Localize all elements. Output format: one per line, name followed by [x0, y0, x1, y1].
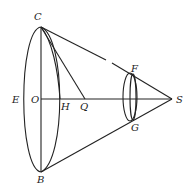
diagram-canvas: C E O H Q B F G S: [0, 0, 195, 195]
label-B: B: [36, 174, 44, 185]
label-Q: Q: [80, 101, 88, 112]
label-E: E: [11, 94, 20, 105]
cone-diagram: C E O H Q B F G S: [0, 0, 195, 195]
label-F: F: [130, 63, 139, 74]
label-C: C: [34, 11, 42, 22]
label-H: H: [60, 101, 70, 112]
label-O: O: [31, 94, 39, 105]
label-G: G: [131, 122, 139, 133]
label-S: S: [176, 94, 183, 105]
slant-CF-2: [112, 63, 172, 99]
section-ellipse-inner: [130, 74, 136, 120]
